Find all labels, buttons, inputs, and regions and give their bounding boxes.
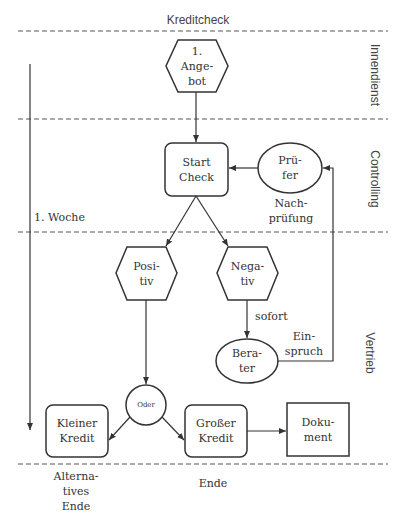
alt-end-line1: Alterna- (53, 469, 98, 484)
node-start-check-label: Start Check (165, 143, 228, 196)
start-check-line2: Check (179, 170, 214, 185)
grosser-kredit-line2: Kredit (199, 431, 234, 446)
node-grosser-kredit-label: Großer Kredit (185, 405, 247, 457)
edge-label-sofort: sofort (255, 310, 288, 324)
pruefer-line1: Prü- (278, 153, 301, 168)
einspruch-line2: spruch (285, 344, 323, 359)
node-negativ-label: Nega- tiv (217, 247, 278, 300)
grosser-kredit-line1: Großer (196, 416, 236, 431)
edge-label-einspruch: Ein- spruch (280, 328, 328, 360)
node-berater-label: Bera- ter (216, 339, 278, 383)
node-pruefer-label: Prü- fer (258, 143, 322, 193)
dokument-line2: ment (304, 430, 332, 445)
positiv-line2: tiv (139, 274, 153, 289)
alt-end-line2: tives (63, 484, 89, 499)
edge-startcheck-negativ (196, 196, 228, 246)
alt-end-line3: Ende (62, 499, 91, 514)
diagram-title: Kreditcheck (150, 13, 246, 27)
node-angebot-label: 1. Ange- bot (166, 40, 228, 92)
nachpruefung-line2: prüfung (269, 211, 314, 226)
kleiner-kredit-line2: Kredit (60, 431, 95, 446)
lane-label-innendienst: Innendienst (368, 35, 382, 115)
angebot-line1: 1. (192, 44, 203, 59)
nachpruefung-line1: Nach- (274, 196, 307, 211)
berater-line2: ter (239, 361, 255, 376)
node-positiv-label: Posi- tiv (116, 247, 177, 300)
negativ-line2: tiv (240, 274, 254, 289)
start-check-line1: Start (182, 155, 210, 170)
edge-label-nachpruefung: Nach- prüfung (260, 195, 322, 227)
negativ-line1: Nega- (231, 259, 264, 274)
angebot-line2: Ange- (181, 59, 213, 74)
positiv-line1: Posi- (133, 259, 159, 274)
dokument-line1: Doku- (302, 415, 335, 430)
lane-label-controlling: Controlling (368, 139, 382, 219)
timeline-label: 1. Woche (34, 211, 85, 225)
angebot-line3: bot (188, 74, 206, 89)
lane-label-vertrieb: Vertrieb (363, 318, 377, 388)
node-dokument-label: Doku- ment (287, 403, 349, 456)
kleiner-kredit-line1: Kleiner (57, 416, 98, 431)
alternative-end-label: Alterna- tives Ende (45, 468, 107, 514)
edge-startcheck-positiv (166, 196, 196, 246)
node-kleiner-kredit-label: Kleiner Kredit (46, 405, 108, 457)
node-oder-label: Oder (126, 385, 166, 425)
berater-line1: Bera- (232, 346, 262, 361)
end-label: Ende (195, 477, 231, 491)
einspruch-line1: Ein- (293, 329, 315, 344)
pruefer-line2: fer (282, 168, 298, 183)
